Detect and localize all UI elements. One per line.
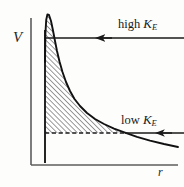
high-energy-label-symbol: K xyxy=(143,16,152,31)
low-energy-label-symbol: K xyxy=(143,112,152,127)
x-axis-label: r xyxy=(158,166,163,178)
low-energy-label: low KE xyxy=(121,113,157,127)
y-axis-label: V xyxy=(13,30,22,45)
high-energy-label: high KE xyxy=(118,17,157,31)
classically-forbidden-region xyxy=(45,14,124,133)
low-energy-label-prefix: low xyxy=(121,113,143,127)
high-energy-label-subscript: E xyxy=(152,22,157,32)
potential-barrier-figure: V r high KE low KE xyxy=(0,0,184,187)
low-energy-label-subscript: E xyxy=(152,118,157,128)
high-energy-label-prefix: high xyxy=(118,17,143,31)
